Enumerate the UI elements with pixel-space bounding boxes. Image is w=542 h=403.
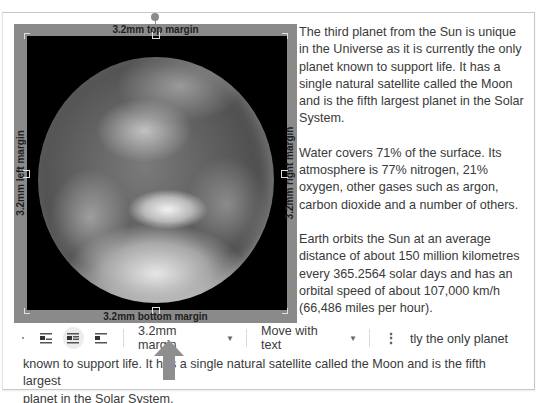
resize-handle-top[interactable] [152,32,160,39]
chevron-down-icon: ▼ [226,334,234,343]
break-text-icon [94,332,108,344]
paragraph-1[interactable]: The third planet from the Sun is unique … [299,24,529,128]
paragraph-3[interactable]: Earth orbits the Sun at an average dista… [299,231,529,317]
chevron-down-icon: ▼ [349,334,357,343]
image-options-toolbar: 3.2mm margin ▼ Move with text ▼ ⋮ [14,324,404,352]
resize-handle-bottom[interactable] [152,307,160,314]
more-options-button[interactable]: ⋮ [378,330,404,346]
rotate-handle[interactable] [151,13,159,21]
selected-image-frame[interactable]: 3.2mm top margin 3.2mm bottom margin 3.2… [14,24,297,323]
break-text-button[interactable] [90,327,111,349]
resize-handle-bottom-left[interactable] [24,308,30,314]
more-vert-icon: ⋮ [384,330,398,346]
toolbar-drag-dot [22,337,24,339]
position-dropdown-value: Move with text [261,324,337,352]
inline-icon [39,332,53,344]
resize-handle-bottom-right[interactable] [282,308,288,314]
toolbar-divider [369,329,370,347]
margin-dropdown[interactable]: 3.2mm margin ▼ [132,324,240,352]
text-line[interactable]: known to support life. It has a single n… [23,356,523,391]
resize-handle-top-left[interactable] [24,33,30,39]
resize-handle-top-right[interactable] [282,33,288,39]
wrap-text-icon [66,332,80,344]
resize-handle-left[interactable] [23,170,30,178]
pointer-arrow-icon [154,340,184,380]
inline-button[interactable] [36,327,57,349]
toolbar-divider [246,329,247,347]
resize-handle-right[interactable] [281,170,288,178]
earth-image [38,57,274,303]
document-text-wrapped[interactable]: The third planet from the Sun is unique … [299,24,529,334]
document-text-below[interactable]: known to support life. It has a single n… [23,356,523,403]
wrap-text-button[interactable] [63,327,84,349]
image-canvas [27,36,287,310]
toolbar-divider [123,329,124,347]
paragraph-partial-line[interactable]: tly the only planet [410,332,508,346]
position-dropdown[interactable]: Move with text ▼ [255,324,363,352]
paragraph-2[interactable]: Water covers 71% of the surface. Its atm… [299,145,529,214]
text-line[interactable]: planet in the Solar System. [23,391,523,403]
